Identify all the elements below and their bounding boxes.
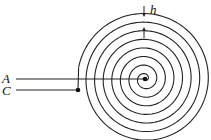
spiral-winding	[79, 14, 209, 140]
label-h: h	[150, 3, 157, 16]
arrowhead-up-icon	[142, 27, 146, 31]
arrowhead-down-icon	[142, 13, 146, 17]
lead-c-connector	[78, 68, 79, 90]
outer-terminal-dot	[76, 88, 81, 93]
center-terminal-dot	[143, 77, 148, 82]
spiral-coil-diagram	[0, 0, 211, 140]
label-c: C	[2, 84, 11, 97]
